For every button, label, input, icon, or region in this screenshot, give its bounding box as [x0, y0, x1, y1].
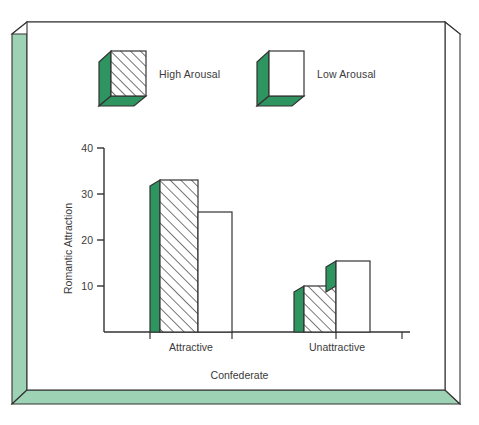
bar-front-face: [304, 286, 336, 332]
y-tick-label-40: 40: [69, 142, 93, 154]
bar-left-face: [326, 261, 336, 292]
bar-left-face: [294, 286, 304, 332]
x-category-label-attractive: Attractive: [141, 341, 241, 353]
bar-unattractive-high-arousal: [294, 286, 336, 332]
bar-attractive-low-arousal: [198, 212, 232, 332]
bar-left-face: [150, 180, 160, 332]
x-category-label-unattractive: Unattractive: [282, 341, 392, 353]
bar-front-face: [336, 261, 370, 332]
bar-front-face: [198, 212, 232, 332]
bar-front-face: [160, 180, 198, 332]
y-axis-title: Romantic Attraction: [62, 203, 74, 294]
y-tick-label-30: 30: [69, 188, 93, 200]
x-axis-title: Confederate: [0, 369, 479, 381]
chart-figure: High Arousal Low Arousal: [0, 0, 479, 425]
bar-attractive-high-arousal: [150, 180, 198, 332]
